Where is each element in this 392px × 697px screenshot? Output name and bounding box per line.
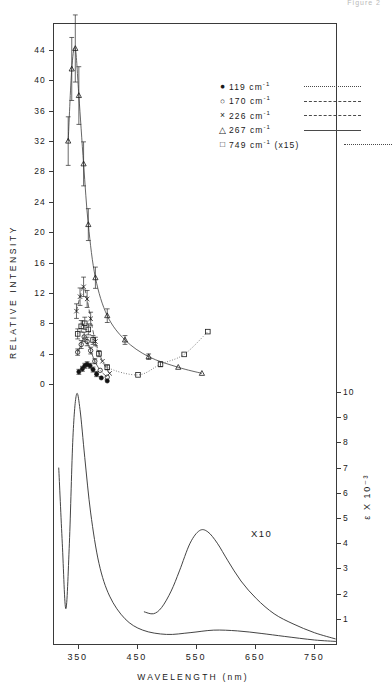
- y-tick-label: 20: [34, 227, 46, 237]
- y-tick-label: 0: [40, 379, 46, 389]
- y-axis-title: RELATIVE INTENSITY: [8, 225, 18, 359]
- y-right-tick-label: 2: [343, 589, 349, 599]
- y-tick-label: 40: [34, 75, 46, 85]
- legend-exponent: -1: [263, 81, 271, 87]
- legend: ●119 cm-1○170 cm-1×226 cm-1△267 cm-1□749…: [216, 79, 366, 152]
- x-axis-title: WAVELENGTH (nm): [137, 672, 248, 682]
- y-right-tick-label: 9: [343, 412, 349, 422]
- legend-label: 267 cm-1: [229, 124, 271, 135]
- y-tick-label: 24: [34, 197, 46, 207]
- y-tick-label: 32: [34, 136, 46, 146]
- series-line: [59, 393, 337, 641]
- legend-exponent: -1: [263, 139, 271, 145]
- x-tick-label: 450: [127, 652, 147, 662]
- legend-marker-icon: □: [216, 140, 229, 149]
- annotation-x10: X10: [251, 528, 272, 539]
- error-bar: [75, 329, 80, 339]
- legend-line-sample: [344, 144, 392, 145]
- figure-caption: Figure 2: [347, 0, 381, 6]
- legend-item: ●119 cm-1: [216, 79, 366, 94]
- data-point-marker: [98, 368, 102, 372]
- legend-label: 119 cm-1: [229, 81, 270, 92]
- series-absorbance: [59, 393, 337, 641]
- y-tick-label: 44: [34, 45, 46, 55]
- legend-item: ×226 cm-1: [216, 108, 366, 123]
- y-right-tick-label: 1: [343, 614, 349, 624]
- legend-marker-icon: ●: [216, 82, 229, 91]
- y-tick-label: 4: [40, 349, 46, 359]
- x-tick-label: 650: [245, 652, 265, 662]
- data-point-marker: [95, 372, 99, 376]
- legend-line-sample: [304, 130, 361, 131]
- error-bar: [79, 321, 84, 333]
- legend-line-sample: [304, 86, 361, 87]
- y-right-tick-label: 3: [343, 563, 349, 573]
- series-749-cm-1-x15-: [75, 317, 210, 377]
- legend-exponent: -1: [263, 95, 271, 101]
- y-tick-label: 16: [34, 258, 46, 268]
- legend-label: 170 cm-1: [229, 95, 271, 106]
- legend-exponent: -1: [263, 110, 271, 116]
- series-line: [144, 530, 336, 639]
- series-absorbance-x10-q-band-: [144, 530, 336, 639]
- legend-line-sample: [304, 101, 361, 102]
- data-point-marker: [206, 329, 211, 334]
- legend-marker-icon: △: [216, 126, 229, 135]
- legend-line-sample: [304, 115, 361, 116]
- y-right-tick-label: 8: [343, 437, 349, 447]
- x-tick-label: 550: [186, 652, 206, 662]
- data-point-marker: [77, 370, 81, 374]
- y-right-tick-label: 6: [343, 488, 349, 498]
- legend-label: 226 cm-1: [229, 110, 271, 121]
- legend-marker-icon: ×: [216, 111, 229, 120]
- y-right-tick-label: 10: [343, 387, 354, 397]
- legend-marker-icon: ○: [216, 97, 229, 106]
- data-point-marker: [91, 367, 95, 371]
- error-bar: [82, 317, 87, 329]
- legend-item: ○170 cm-1: [216, 94, 366, 109]
- y-right-tick-label: 7: [343, 463, 349, 473]
- legend-label: 749 cm-1 (x15): [229, 139, 299, 150]
- data-point-marker: [107, 371, 111, 375]
- series-line: [78, 323, 208, 375]
- y-tick-label: 36: [34, 106, 46, 116]
- data-point-marker: [99, 376, 103, 380]
- legend-item: □749 cm-1 (x15): [216, 137, 366, 152]
- y-right-tick-label: 4: [343, 538, 349, 548]
- x-tick-label: 350: [67, 652, 87, 662]
- plot-frame: 048121620242832364044 12345678910 350450…: [53, 23, 337, 645]
- y-axis-right-title: ε X 10⁻³: [362, 474, 372, 520]
- x-tick-label: 750: [304, 652, 324, 662]
- y-tick-label: 12: [34, 288, 46, 298]
- y-tick-label: 28: [34, 166, 46, 176]
- legend-exponent: -1: [263, 124, 271, 130]
- y-right-tick-label: 5: [343, 513, 349, 523]
- legend-item: △267 cm-1: [216, 123, 366, 138]
- y-tick-label: 8: [40, 318, 46, 328]
- data-point-marker: [100, 359, 104, 363]
